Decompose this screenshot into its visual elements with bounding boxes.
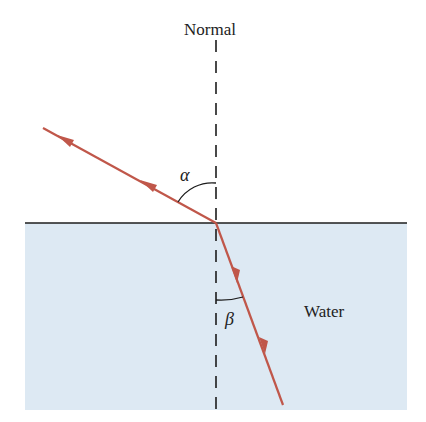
- water-label: Water: [304, 302, 344, 321]
- alpha-label: α: [180, 165, 190, 185]
- diagram-canvas: Normal α β Water: [0, 0, 426, 422]
- alpha-arc: [178, 183, 216, 202]
- normal-label: Normal: [184, 20, 236, 39]
- beta-label: β: [224, 309, 234, 329]
- refraction-diagram: Normal α β Water: [0, 0, 426, 422]
- incident-arrowhead-1: [57, 135, 74, 147]
